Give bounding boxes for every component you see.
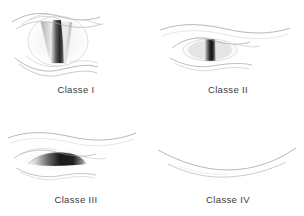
illustration-classe-2: [152, 0, 304, 86]
mallampati-classification-figure: Classe I: [0, 0, 304, 216]
panel-classe-2: Classe II: [152, 0, 304, 108]
panel-classe-1: Classe I: [0, 0, 152, 108]
panel-classe-3: Classe III: [0, 108, 152, 216]
illustration-classe-1: [0, 0, 152, 86]
caption-classe-2: Classe II: [152, 84, 304, 95]
panel-classe-4: Classe IV: [152, 108, 304, 216]
caption-classe-3: Classe III: [0, 194, 152, 205]
illustration-classe-3: [0, 108, 152, 194]
caption-classe-4: Classe IV: [152, 194, 304, 205]
illustration-classe-4: [152, 108, 304, 194]
caption-classe-1: Classe I: [0, 84, 152, 95]
